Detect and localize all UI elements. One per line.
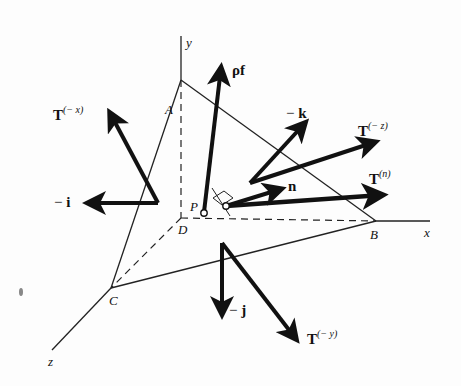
point-normal-origin (223, 203, 229, 209)
body-force-arrow (204, 68, 221, 212)
edge-DB (181, 218, 376, 221)
T-symbol: T (307, 331, 317, 347)
T-neg-y-label: T(− y) (307, 332, 337, 347)
superscript: (n) (379, 168, 391, 179)
tetrahedron-diagram: y x z A B C D P ρf − k T(− z) T(n) n T(−… (0, 0, 461, 386)
point-A-label: A (165, 103, 173, 116)
T-neg-y-arrow (222, 243, 296, 339)
edge-CB (111, 221, 376, 288)
edge-DC (111, 218, 181, 288)
T-neg-x-label: T(− x) (53, 108, 83, 123)
j-symbol: j (241, 302, 246, 318)
minus-sign: − (286, 105, 294, 121)
T-symbol: T (369, 171, 379, 187)
body-force-label: ρf (232, 63, 245, 78)
n-label: n (288, 179, 296, 194)
point-P (201, 210, 207, 216)
T-neg-z-label: T(− z) (358, 124, 388, 139)
minus-sign: − (229, 302, 237, 318)
z-axis-label: z (48, 355, 53, 368)
k-symbol: k (298, 105, 306, 121)
print-speck (19, 288, 23, 296)
superscript: (− x) (63, 104, 83, 115)
neg-k-label: − k (286, 106, 307, 121)
neg-j-label: − j (229, 303, 246, 318)
T-symbol: T (53, 107, 63, 123)
x-axis-label: x (424, 226, 430, 239)
T-neg-x-arrow (110, 113, 158, 203)
diagram-graphics (0, 0, 461, 386)
point-B-label: B (370, 228, 378, 241)
y-axis-label: y (186, 36, 192, 49)
superscript: (− z) (368, 120, 388, 131)
point-C-label: C (109, 294, 118, 307)
minus-sign: − (54, 194, 62, 210)
T-n-label: T(n) (369, 172, 391, 187)
point-D-label: D (178, 223, 187, 236)
neg-i-label: − i (54, 195, 70, 210)
T-symbol: T (358, 123, 368, 139)
z-axis (52, 288, 111, 350)
point-P-label: P (190, 200, 198, 213)
superscript: (− y) (317, 328, 337, 339)
i-symbol: i (66, 194, 70, 210)
